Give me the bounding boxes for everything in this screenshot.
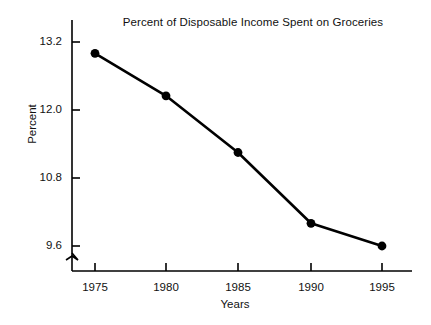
data-point-1995 [378,242,387,251]
data-point-1990 [307,219,316,228]
data-point-1980 [162,91,171,100]
y-axis-ticks [72,42,80,246]
plot-area [0,0,431,325]
data-point-1975 [91,49,100,58]
axes [72,20,412,271]
data-point-1985 [234,148,243,157]
x-axis-ticks [95,263,382,271]
data-point-markers [91,49,387,251]
chart-container: Percent of Disposable Income Spent on Gr… [0,0,431,325]
